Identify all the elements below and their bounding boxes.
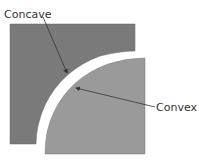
concave-label: Concave: [4, 9, 51, 20]
convex-label: Convex: [156, 102, 197, 113]
concave-convex-diagram: [0, 0, 199, 160]
